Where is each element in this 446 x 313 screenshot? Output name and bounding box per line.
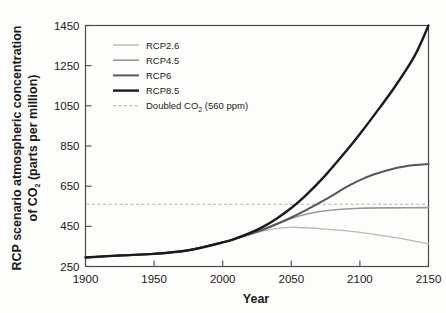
- chart-figure: RCP scenario atmospheric concentration o…: [0, 0, 446, 313]
- y-tick-label: 250: [60, 261, 79, 273]
- y-tick-label: 650: [60, 180, 79, 192]
- legend-label-2: RCP4.5: [146, 55, 179, 66]
- y-axis-title: RCP scenario atmospheric concentration o…: [10, 26, 41, 271]
- x-tick-label: 1950: [141, 273, 167, 285]
- y-tick-label: 450: [60, 220, 79, 232]
- chart-legend: RCP2.6RCP4.5RCP6RCP8.5Doubled CO2 (560 p…: [113, 40, 248, 113]
- x-tick-label: 2100: [347, 273, 373, 285]
- series-line-rcp6: [86, 164, 429, 257]
- y-axis-title-line2-pre: of CO: [26, 187, 40, 221]
- y-tick-label: 1050: [54, 100, 80, 112]
- legend-label-4: RCP8.5: [146, 85, 179, 96]
- x-tick-label: 1900: [73, 273, 99, 285]
- legend-label-1: RCP2.6: [146, 40, 179, 51]
- y-tick-label: 1450: [54, 20, 80, 32]
- x-axis-title: Year: [243, 292, 270, 306]
- y-tick-label: 850: [60, 140, 79, 152]
- y-axis-title-line1: RCP scenario atmospheric concentration: [10, 26, 24, 271]
- x-tick-label: 2050: [279, 273, 305, 285]
- legend-label-3: RCP6: [146, 70, 171, 81]
- co2-concentration-line-chart: RCP scenario atmospheric concentration o…: [0, 0, 446, 313]
- y-axis-title-line2-post: (parts per million): [26, 75, 40, 184]
- y-axis-title-line2: of CO2 (parts per million): [26, 75, 41, 222]
- y-tick-label: 1250: [54, 60, 80, 72]
- x-tick-label: 2000: [210, 273, 236, 285]
- x-axis-ticks: 190019502000205021002150: [73, 261, 442, 285]
- x-tick-label: 2150: [416, 273, 442, 285]
- legend-label-5: Doubled CO2 (560 ppm): [146, 100, 248, 113]
